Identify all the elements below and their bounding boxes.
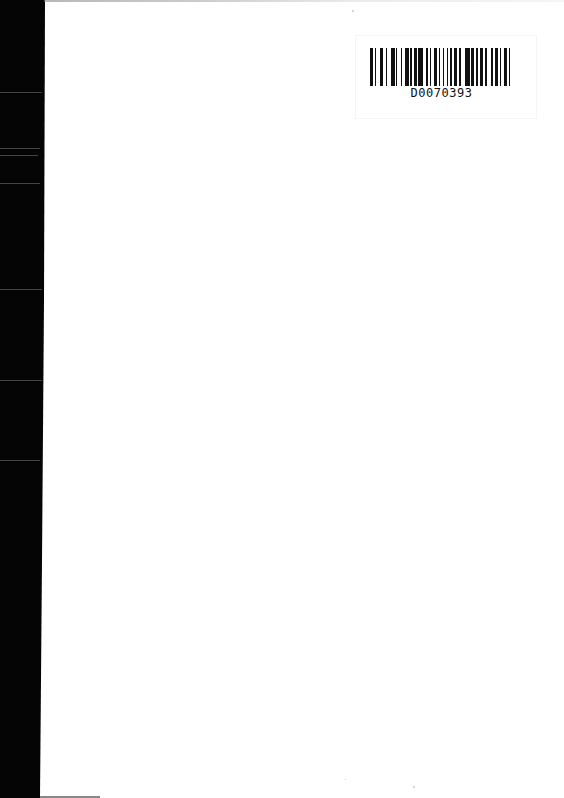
scan-streak: [0, 155, 38, 156]
barcode-space: [510, 48, 513, 86]
scanner-black-margin: [0, 0, 46, 798]
scan-streak: [0, 289, 42, 290]
scan-streak: [0, 460, 40, 461]
scan-streak: [0, 380, 42, 381]
dust-speck: [413, 786, 415, 788]
scan-streak: [0, 92, 42, 93]
page-top-edge: [44, 0, 564, 2]
scan-streak: [0, 148, 40, 149]
dust-speck: [352, 10, 354, 12]
dust-speck: [345, 779, 346, 780]
barcode-bars: [370, 48, 513, 86]
barcode-id-text: D0070393: [370, 86, 513, 100]
scan-streak: [0, 183, 40, 184]
scanned-page: D0070393: [0, 0, 564, 798]
